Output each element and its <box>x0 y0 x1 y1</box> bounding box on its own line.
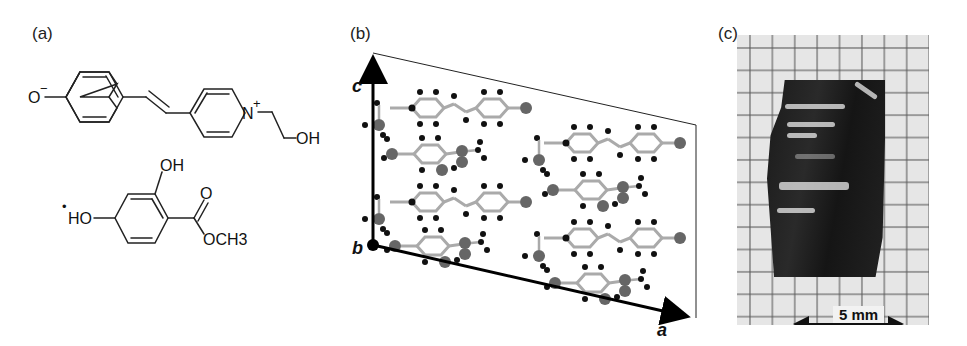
panel-a-chemical-structures: (a) <box>0 0 340 346</box>
molecules <box>362 89 686 305</box>
crystal-photograph: 5 mm <box>737 35 929 325</box>
axis-label-c: c <box>352 76 362 96</box>
charge-minus: − <box>40 81 48 96</box>
scale-bar-label: 5 mm <box>833 306 884 323</box>
chemical-structure-diagram: O − N + OH • HO OH O OCH3 <box>0 0 340 346</box>
scale-bar <box>737 35 929 325</box>
panel-c-crystal-photo: (c) 5 mm <box>720 0 967 346</box>
atom-hydroxyl: OH <box>296 130 320 147</box>
charge-plus: + <box>253 96 261 111</box>
panel-label-b: (b) <box>350 24 371 44</box>
panel-b-crystal-packing: (b) <box>340 0 720 346</box>
axis-label-a: a <box>657 320 667 340</box>
atom-ester-och3: OCH3 <box>203 231 248 248</box>
atom-pyridinium-n: N <box>242 105 254 122</box>
atom-ortho-hydroxyl: OH <box>160 157 184 174</box>
atom-carbonyl-o: O <box>200 185 212 202</box>
atom-para-hydroxyl: HO <box>68 210 92 227</box>
panel-label-c: (c) <box>718 24 738 44</box>
crystal-packing-diagram: c b a <box>340 0 720 346</box>
cocrystal-dot: • <box>62 199 67 214</box>
panel-label-a: (a) <box>32 24 53 44</box>
axis-b-origin <box>367 239 379 251</box>
axis-label-b: b <box>352 238 363 258</box>
atom-phenolate-o: O <box>28 89 40 106</box>
